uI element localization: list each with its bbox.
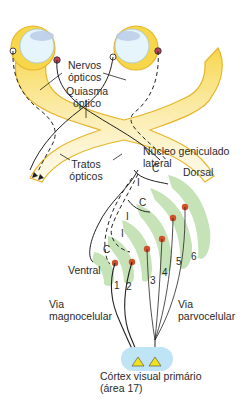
layer-number-3: 3 [150,275,156,286]
label-magnocellular-pathway: Via magnocelular [49,298,112,322]
label-optic-chiasm: Quiasma óptico [64,85,110,109]
mark-ipsilateral-1: I [137,177,140,188]
label-cortex-line2: (área 17) [100,382,202,394]
label-dorsal: Dorsal [183,166,213,178]
label-lgn-line1: Núcleo geniculado [143,145,229,157]
label-optic-tracts-line1: Tratos [66,158,106,170]
label-magno-line2: magnocelular [49,310,112,322]
mark-contralateral-1: C [152,163,159,174]
label-optic-nerves: Nervos ópticos [68,59,101,83]
mark-contralateral-2: C [139,197,146,208]
mark-contralateral-3: C [103,244,110,255]
label-optic-chiasm-line2: óptico [64,97,110,109]
label-optic-tracts-line2: ópticos [66,170,106,182]
layer-number-2: 2 [126,281,132,292]
label-parvocellular-pathway: Via parvocelular [178,298,235,322]
layer-number-4: 4 [162,267,168,278]
visual-pathway-diagram [0,0,250,401]
label-cortex-line1: Córtex visual primário [100,370,202,382]
primary-visual-cortex [121,347,173,371]
mark-ipsilateral-2: I [126,211,129,222]
layer-number-1: 1 [114,280,120,291]
right-eye [110,26,161,70]
layer-number-5: 5 [176,256,182,267]
lgn-layers [92,175,210,286]
label-optic-nerves-line1: Nervos [68,59,101,71]
mark-ipsilateral-3: I [121,228,124,239]
left-eye [10,26,60,70]
label-primary-visual-cortex: Córtex visual primário (área 17) [100,370,202,394]
label-optic-tracts: Tratos ópticos [66,158,106,182]
label-optic-chiasm-line1: Quiasma [64,85,110,97]
label-ventral: Ventral [68,264,101,276]
label-optic-nerves-line2: ópticos [68,71,101,83]
label-parvo-line2: parvocelular [178,310,235,322]
label-magno-line1: Via [49,298,112,310]
layer-number-6: 6 [191,251,197,262]
label-parvo-line1: Via [178,298,235,310]
